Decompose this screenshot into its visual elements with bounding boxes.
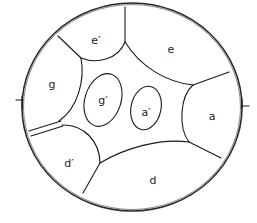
boundary-e-a-divider xyxy=(193,72,229,85)
boundary-d-d-prime-divider xyxy=(83,163,100,193)
right-tick-mark xyxy=(242,99,249,108)
boundary-a-d-divider xyxy=(189,142,221,158)
region-label-a-prime: a′ xyxy=(141,106,151,119)
region-label-g-prime: g′ xyxy=(98,94,108,107)
boundary-g-right xyxy=(59,58,82,121)
boundary-e-prime-bottom xyxy=(81,42,125,61)
region-label-e-prime: e′ xyxy=(91,34,101,47)
outer-boundary-circle xyxy=(22,3,242,211)
region-diagram: e′ e g g′ a′ a d′ d xyxy=(0,0,257,223)
region-label-g: g xyxy=(49,78,56,91)
left-tick-mark xyxy=(16,96,23,109)
boundary-g-d-prime-double-line-1 xyxy=(29,121,61,131)
boundary-d-top xyxy=(100,141,189,163)
boundary-e-bottom xyxy=(125,42,193,85)
region-label-d: d xyxy=(150,174,157,187)
boundary-e-prime-left xyxy=(58,36,81,58)
outer-boundary-inner-rim xyxy=(24,5,241,210)
region-label-d-prime: d′ xyxy=(64,157,74,170)
region-label-e: e xyxy=(168,43,175,56)
boundary-a-left xyxy=(182,85,193,142)
region-label-a: a xyxy=(209,110,216,123)
boundary-g-d-prime-double-line-2 xyxy=(31,126,63,136)
